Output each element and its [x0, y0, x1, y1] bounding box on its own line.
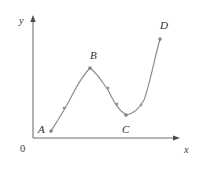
point-label-c: C: [122, 123, 130, 135]
curve-marker-dot: [140, 104, 142, 106]
y-axis-label: y: [18, 15, 24, 26]
point-label-b: B: [90, 49, 97, 61]
x-axis-label: x: [183, 144, 189, 155]
figure-canvas: y x 0 A B C D: [0, 0, 199, 171]
curve-path: [51, 39, 160, 131]
y-axis-arrow-icon: [30, 15, 35, 22]
point-marker-d: [159, 38, 162, 41]
origin-label: 0: [20, 143, 25, 154]
point-marker-c: [125, 114, 128, 117]
point-label-a: A: [37, 123, 45, 135]
curve-marker-dot: [116, 103, 118, 105]
curve-marker-dot: [63, 107, 65, 109]
point-marker-b: [89, 67, 92, 70]
point-label-d: D: [159, 19, 168, 31]
curve-marker-dot: [107, 87, 109, 89]
x-axis-arrow-icon: [173, 135, 180, 140]
curve-figure: y x 0 A B C D: [0, 0, 199, 171]
point-marker-a: [50, 130, 53, 133]
